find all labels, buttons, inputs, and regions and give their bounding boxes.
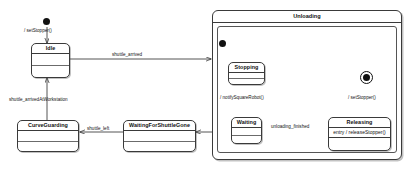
state-waiting-compartment-2	[232, 136, 261, 143]
transition-label-shuttle-arrived: shuttle_arrived	[112, 52, 142, 58]
state-idle-name: Idle	[32, 44, 69, 54]
initial-pseudostate-unloading	[219, 40, 226, 47]
state-idle[interactable]: Idle	[31, 43, 70, 78]
transition-label-set-stopper-initial: / setStopper()	[24, 28, 52, 34]
state-diagram-canvas: / setStopper() Idle shuttle_arrived shut…	[0, 0, 412, 171]
state-waitingforshuttlegone[interactable]: WaitingForShuttleGone	[123, 120, 196, 152]
transition-label-notify-square-robot: / notifySquareRobot()	[220, 95, 264, 101]
transition-label-unloading-finished: unloading_finished	[271, 124, 309, 130]
state-waitingforshuttlegone-compartment-1	[124, 131, 195, 142]
state-waiting-compartment-1	[232, 128, 261, 136]
state-waiting[interactable]: Waiting	[231, 117, 262, 144]
initial-pseudostate-top	[43, 18, 50, 25]
transition-label-shuttle-arrived-at-workstation: shuttle_arrivedAtWorkstation	[9, 97, 68, 103]
state-releasing-entry-action: entry / releaseStopper()	[329, 128, 390, 138]
transition-label-shuttle-left: shuttle_left	[87, 126, 109, 132]
state-waitingforshuttlegone-compartment-2	[124, 142, 195, 152]
state-idle-compartment-2	[32, 66, 69, 77]
state-releasing-name: Releasing	[329, 118, 390, 128]
state-waiting-name: Waiting	[232, 118, 261, 128]
transition-label-set-stopper-final: / setStopper()	[348, 95, 376, 101]
state-releasing-compartment-1	[329, 138, 390, 150]
state-curveguarding-compartment-2	[18, 142, 78, 152]
state-stopping-compartment-2	[229, 79, 264, 84]
state-waitingforshuttlegone-name: WaitingForShuttleGone	[124, 121, 195, 131]
state-curveguarding[interactable]: CurveGuarding	[17, 120, 79, 152]
final-state-unloading	[360, 71, 373, 84]
state-idle-compartment-1	[32, 54, 69, 66]
state-curveguarding-compartment-1	[18, 131, 78, 142]
composite-state-unloading-name: Unloading	[213, 11, 401, 23]
state-stopping[interactable]: Stopping	[228, 62, 265, 85]
state-stopping-name: Stopping	[229, 63, 264, 73]
state-curveguarding-name: CurveGuarding	[18, 121, 78, 131]
final-state-inner-dot	[363, 74, 370, 81]
state-releasing[interactable]: Releasing entry / releaseStopper()	[328, 117, 391, 151]
